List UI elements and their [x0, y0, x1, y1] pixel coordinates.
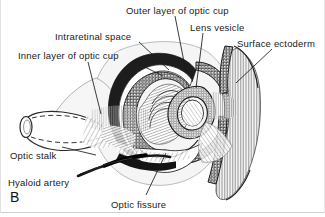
label-optic-stalk: Optic stalk	[10, 150, 56, 161]
label-intraretinal-space: Intraretinal space	[55, 31, 131, 42]
label-lens-vesicle: Lens vesicle	[190, 22, 245, 33]
label-hyaloid-artery: Hyaloid artery	[8, 177, 69, 188]
label-optic-fissure: Optic fissure	[111, 199, 166, 210]
label-surface-ectoderm: Surface ectoderm	[237, 38, 315, 49]
label-outer-layer-of-optic-cup: Outer layer of optic cup	[126, 5, 229, 16]
label-inner-layer-of-optic-cup: Inner layer of optic cup	[18, 50, 119, 61]
figure-panel-b: Outer layer of optic cupLens vesicleSurf…	[0, 0, 325, 217]
panel-label: B	[10, 189, 19, 205]
